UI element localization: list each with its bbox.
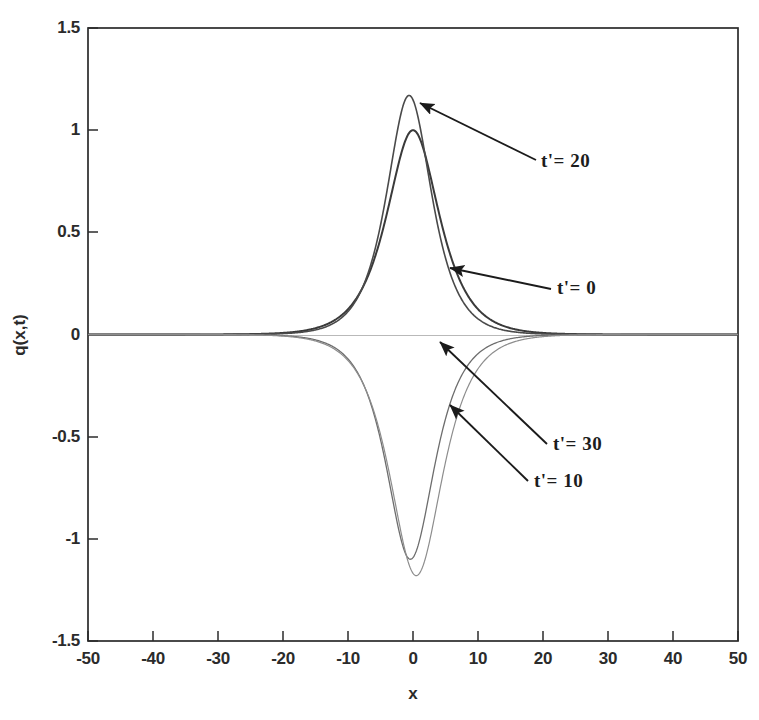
annotation-label-t0: t'= 0 xyxy=(557,277,596,299)
y-tick-label: -0.5 xyxy=(20,427,80,447)
annotation-label-t20: t'= 20 xyxy=(541,150,590,172)
x-tick-label: 30 xyxy=(599,649,617,669)
y-tick-label: 1.5 xyxy=(20,18,80,38)
figure-container: 1.5 1 0.5 0 -0.5 -1 -1.5 -50 -40 -30 -20… xyxy=(0,0,759,720)
x-tick-label: -10 xyxy=(336,649,360,669)
x-tick-label: 20 xyxy=(534,649,552,669)
x-tick-label: -50 xyxy=(76,649,100,669)
annotation-label-t10: t'= 10 xyxy=(534,470,583,492)
x-axis-title: x xyxy=(408,684,417,704)
x-tick-label: -30 xyxy=(206,649,230,669)
y-tick-label: 1 xyxy=(20,120,80,140)
y-tick-label: 0.5 xyxy=(20,222,80,242)
x-tick-label: -20 xyxy=(271,649,295,669)
y-axis-title: q(x,t) xyxy=(10,314,30,356)
x-tick-label: 50 xyxy=(729,649,747,669)
x-tick-label: -40 xyxy=(141,649,165,669)
plot-canvas xyxy=(0,0,759,720)
y-tick-label: -1.5 xyxy=(20,631,80,651)
x-tick-label: 40 xyxy=(664,649,682,669)
x-tick-label: 0 xyxy=(408,649,417,669)
y-tick-label: -1 xyxy=(20,529,80,549)
x-tick-label: 10 xyxy=(469,649,487,669)
annotation-label-t30: t'= 30 xyxy=(553,433,602,455)
